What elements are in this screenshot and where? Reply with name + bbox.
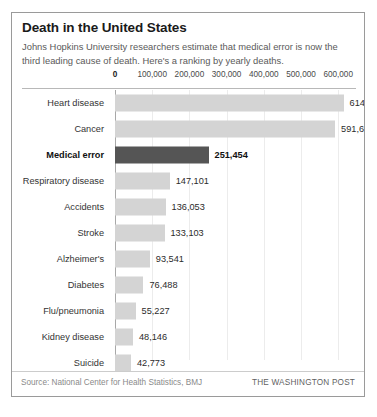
bar-row: Medical error251,454	[12, 142, 364, 168]
bar-value-label: 48,146	[139, 332, 167, 342]
x-tick-label: 0	[113, 70, 118, 79]
chart-figure: Death in the United States Johns Hopkins…	[11, 12, 365, 397]
publisher-credit: THE WASHINGTON POST	[252, 378, 355, 387]
bar-value-label: 136,053	[172, 202, 205, 212]
bar-value-label: 147,101	[176, 176, 209, 186]
bar-category-label: Kidney disease	[12, 332, 104, 342]
bar	[115, 147, 209, 164]
x-axis: 0100,000200,000300,000400,000500,000600,…	[12, 70, 364, 90]
bar	[115, 225, 165, 242]
bar-category-label: Diabetes	[12, 280, 104, 290]
bar-category-label: Heart disease	[12, 98, 104, 108]
bar-category-label: Flu/pneumonia	[12, 306, 104, 316]
bar-row: Kidney disease48,146	[12, 324, 364, 350]
bar-category-label: Medical error	[12, 150, 104, 160]
bar-category-label: Respiratory disease	[12, 176, 104, 186]
bar	[115, 95, 344, 112]
x-tick-label: 500,000	[286, 70, 316, 79]
bar-value-label: 133,103	[171, 228, 204, 238]
bar-value-label: 55,227	[142, 306, 170, 316]
bar-row: Stroke133,103	[12, 220, 364, 246]
bar	[115, 329, 133, 346]
source-note: Source: National Center for Health Stati…	[21, 378, 202, 387]
chart-header: Death in the United States Johns Hopkins…	[12, 13, 364, 67]
chart-title: Death in the United States	[22, 20, 354, 36]
bar-row: Cancer591,699	[12, 116, 364, 142]
bar	[115, 199, 166, 216]
bar-category-label: Alzheimer's	[12, 254, 104, 264]
bar-value-label: 93,541	[156, 254, 184, 264]
bar-row: Flu/pneumonia55,227	[12, 298, 364, 324]
bar	[115, 277, 143, 294]
x-tick-label: 100,000	[137, 70, 167, 79]
bar-rows: Heart disease614,348Cancer591,699Medical…	[12, 90, 364, 376]
bar-category-label: Suicide	[12, 358, 104, 368]
bar-row: Accidents136,053	[12, 194, 364, 220]
chart-subtitle: Johns Hopkins University researchers est…	[22, 40, 352, 67]
bar-value-label: 591,699	[341, 124, 365, 134]
bar-category-label: Cancer	[12, 124, 104, 134]
bar	[115, 355, 131, 372]
x-tick-label: 400,000	[249, 70, 279, 79]
x-tick-label: 600,000	[323, 70, 353, 79]
bar	[115, 121, 335, 138]
plot-area: Heart disease614,348Cancer591,699Medical…	[12, 90, 364, 369]
bar-row: Respiratory disease147,101	[12, 168, 364, 194]
bar-row: Heart disease614,348	[12, 90, 364, 116]
bar	[115, 303, 136, 320]
bar-value-label: 614,348	[350, 98, 365, 108]
bar-row: Diabetes76,488	[12, 272, 364, 298]
bar	[115, 173, 170, 190]
bar-category-label: Stroke	[12, 228, 104, 238]
bar-value-label: 76,488	[149, 280, 177, 290]
x-tick-label: 200,000	[175, 70, 205, 79]
bar-value-label: 42,773	[137, 358, 165, 368]
axis-line	[22, 88, 356, 89]
bar-value-label: 251,454	[215, 150, 248, 160]
bar-row: Alzheimer's93,541	[12, 246, 364, 272]
bar-category-label: Accidents	[12, 202, 104, 212]
chart-footer: Source: National Center for Health Stati…	[12, 371, 364, 396]
bar	[115, 251, 150, 268]
x-tick-label: 300,000	[212, 70, 242, 79]
